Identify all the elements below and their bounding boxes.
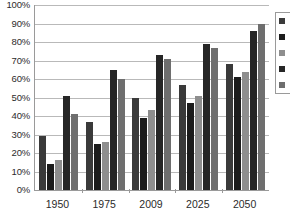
legend-item-3[interactable] bbox=[276, 45, 290, 61]
y-tick-label: 80% bbox=[12, 37, 30, 47]
plot-area bbox=[34, 5, 269, 191]
bar-2009-s4[interactable] bbox=[156, 55, 163, 190]
category-separator bbox=[82, 189, 83, 193]
bar-1950-s2[interactable] bbox=[47, 164, 54, 190]
legend-swatch-icon bbox=[279, 18, 285, 24]
bar-group-2025 bbox=[175, 5, 222, 190]
y-tick-label: 90% bbox=[12, 19, 30, 29]
legend-item-4[interactable] bbox=[276, 61, 290, 77]
bar-group-1950 bbox=[35, 5, 82, 190]
y-tick-label: 0% bbox=[17, 185, 30, 195]
legend-item-2[interactable] bbox=[276, 29, 290, 45]
bar-1975-s2[interactable] bbox=[94, 144, 101, 190]
legend-item-5[interactable] bbox=[276, 77, 290, 93]
bar-2009-s2[interactable] bbox=[140, 118, 147, 190]
chart-legend bbox=[275, 12, 290, 94]
y-tick-label: 50% bbox=[12, 93, 30, 103]
bar-2009-s5[interactable] bbox=[164, 59, 171, 190]
y-axis: 0%10%20%30%40%50%60%70%80%90%100% bbox=[0, 0, 33, 195]
bar-group-2050 bbox=[222, 5, 269, 190]
bar-chart: 0%10%20%30%40%50%60%70%80%90%100% 195019… bbox=[0, 0, 290, 214]
bar-2050-s1[interactable] bbox=[226, 64, 233, 190]
category-separator bbox=[129, 189, 130, 193]
bar-1950-s5[interactable] bbox=[71, 114, 78, 190]
bar-1975-s3[interactable] bbox=[102, 142, 109, 190]
bar-1975-s5[interactable] bbox=[118, 79, 125, 190]
y-tick-label: 20% bbox=[12, 148, 30, 158]
legend-swatch-icon bbox=[279, 34, 285, 40]
category-separator bbox=[222, 189, 223, 193]
y-tick-label: 60% bbox=[12, 74, 30, 84]
bar-group-2009 bbox=[129, 5, 176, 190]
bar-2025-s4[interactable] bbox=[203, 44, 210, 190]
x-tick-label-1950: 1950 bbox=[34, 194, 81, 214]
bar-2050-s2[interactable] bbox=[234, 77, 241, 190]
y-tick-label: 30% bbox=[12, 130, 30, 140]
bar-1975-s1[interactable] bbox=[86, 122, 93, 190]
bar-2050-s3[interactable] bbox=[242, 72, 249, 190]
bars-layer bbox=[35, 5, 269, 190]
bar-group-1975 bbox=[82, 5, 129, 190]
y-tick-label: 40% bbox=[12, 111, 30, 121]
bar-1950-s3[interactable] bbox=[55, 160, 62, 190]
bar-1950-s1[interactable] bbox=[39, 136, 46, 190]
y-tick-label: 70% bbox=[12, 56, 30, 66]
bar-2025-s3[interactable] bbox=[195, 96, 202, 190]
bar-2025-s2[interactable] bbox=[187, 103, 194, 190]
x-tick-label-2050: 2050 bbox=[221, 194, 268, 214]
legend-item-1[interactable] bbox=[276, 13, 290, 29]
bar-1950-s4[interactable] bbox=[63, 96, 70, 190]
y-tick-label: 100% bbox=[7, 0, 31, 10]
bar-2050-s5[interactable] bbox=[258, 24, 265, 191]
bar-2050-s4[interactable] bbox=[250, 31, 257, 190]
bar-2025-s5[interactable] bbox=[211, 48, 218, 190]
legend-swatch-icon bbox=[279, 82, 285, 88]
legend-swatch-icon bbox=[279, 66, 285, 72]
x-tick-label-1975: 1975 bbox=[81, 194, 128, 214]
category-separator bbox=[175, 189, 176, 193]
x-axis: 19501975200920252050 bbox=[34, 194, 268, 214]
x-tick-label-2025: 2025 bbox=[174, 194, 221, 214]
bar-2009-s3[interactable] bbox=[148, 110, 155, 190]
bar-2009-s1[interactable] bbox=[132, 98, 139, 191]
bar-1975-s4[interactable] bbox=[110, 70, 117, 190]
y-tick-label: 10% bbox=[12, 167, 30, 177]
x-tick-label-2009: 2009 bbox=[128, 194, 175, 214]
legend-swatch-icon bbox=[279, 50, 285, 56]
bar-2025-s1[interactable] bbox=[179, 85, 186, 190]
